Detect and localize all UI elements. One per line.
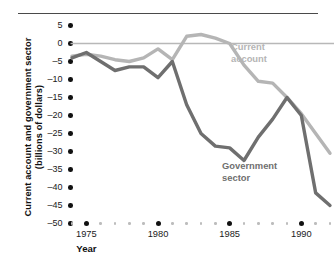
government-sector-label: Government sector (222, 160, 277, 183)
x-axis-title: Year (76, 243, 96, 254)
chart-figure: Current account and government sector (b… (0, 0, 336, 257)
plot-area (0, 0, 336, 257)
series-line-government-sector (72, 53, 330, 206)
current-account-label: Current account (231, 41, 267, 64)
